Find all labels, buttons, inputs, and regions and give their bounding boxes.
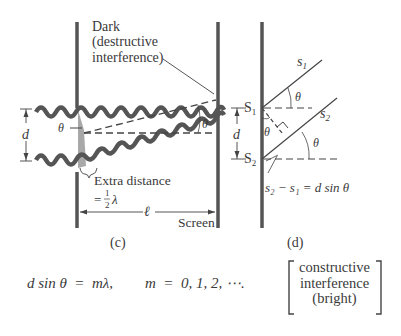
theta-arc-bottom [302,132,309,159]
theta-arc-top [288,88,291,108]
d-arrow-down-d [235,151,240,158]
note-line-constructive: constructive [289,260,380,276]
extra-distance-shade [78,110,86,168]
interference-note: constructive interference (bright) [289,260,380,314]
equation-m-values: m = 0, 1, 2, ⋯. [145,275,245,291]
extra-distance-lambda: λ [111,192,118,207]
dark-label-line1: Dark [92,19,120,34]
path-diff-equation: s₂ − s₁ = d sin θ [265,180,350,195]
theta-left-label: θ [58,121,64,135]
dark-label-line2: (destructive [92,34,158,50]
extra-distance-num: 1 [105,188,110,198]
caption-d: (d) [287,235,304,251]
theta-top-label: θ [295,90,301,104]
slit-s1-label: S1 [244,100,256,117]
dark-label-line3: interference) [92,50,164,66]
ray-s1-label: s1 [297,54,307,71]
screen-label: Screen [178,215,215,230]
ell-arrow-right [208,210,215,215]
d-arrow-up-d [235,109,240,116]
ell-arrow-left [80,210,87,215]
d-arrow-down-c [24,153,29,160]
ell-label: ℓ [144,204,150,219]
note-line-interference: interference [289,276,380,292]
extra-distance-label: Extra distance [94,173,171,188]
ray-s2 [262,98,337,159]
ray-s1 [262,60,322,108]
interference-note-text: constructive interference (bright) [289,260,380,307]
slit-s2-label: S2 [244,151,256,168]
theta-mid-label: θ [264,125,270,139]
d-arrow-up-c [24,110,29,117]
caption-c: (c) [110,235,126,251]
lower-wave [36,113,224,165]
theta-bottom-label: θ [313,136,319,150]
right-angle-mark [277,122,288,128]
upper-wave [36,107,224,117]
theta-right-label: θ [202,117,208,131]
ray-s2-label: s2 [320,106,330,123]
extra-distance-eq: = [94,192,101,207]
dark-leader-line [163,59,214,94]
equation-lhs: d sin θ = mλ, [27,275,113,291]
dashed-ray-c [84,100,216,133]
d-label-c: d [22,127,30,142]
extra-distance-den: 2 [105,200,110,210]
note-line-bright: (bright) [289,291,380,307]
d-label-d: d [233,127,241,142]
